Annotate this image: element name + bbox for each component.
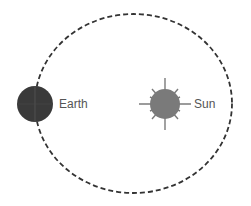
sun-icon bbox=[139, 78, 191, 130]
sun-label: Sun bbox=[194, 98, 215, 110]
earth-icon bbox=[17, 86, 53, 122]
earth-label: Earth bbox=[59, 98, 88, 110]
